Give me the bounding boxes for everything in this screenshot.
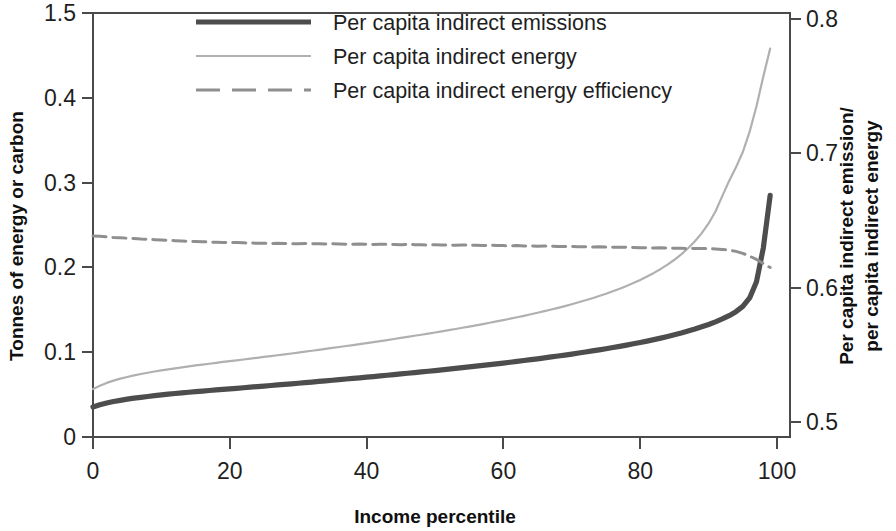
left-tick-label: 1.5 <box>44 0 76 26</box>
left-tick-label: 0.2 <box>44 254 76 280</box>
right-tick-label: 0.5 <box>806 409 838 435</box>
x-tick-label: 0 <box>87 458 100 484</box>
left-tick-label: 0.1 <box>44 339 76 365</box>
right-tick-label: 0.8 <box>806 6 838 32</box>
x-axis-title: Income percentile <box>354 506 516 527</box>
x-tick-label: 60 <box>491 458 517 484</box>
x-tick-label: 100 <box>758 458 796 484</box>
left-tick-label: 0.3 <box>44 170 76 196</box>
chart-figure: 00.10.20.30.41.5 0.50.60.70.8 0204060801… <box>0 0 896 531</box>
left-tick-label: 0 <box>63 424 76 450</box>
x-tick-label: 20 <box>217 458 243 484</box>
right-tick-label: 0.6 <box>806 275 838 301</box>
x-tick-label: 80 <box>627 458 653 484</box>
left-axis-title: Tonnes of energy or carbon <box>6 111 27 361</box>
right-axis-title-line-1: Per capita indirect emission/ <box>836 106 857 364</box>
left-tick-label: 0.4 <box>44 85 76 111</box>
legend-item-label: Per capita indirect emissions <box>333 11 607 35</box>
x-tick-label: 40 <box>354 458 380 484</box>
right-axis-title-line-2: per capita indirect energy <box>861 120 882 352</box>
legend-item-label: Per capita indirect energy <box>333 45 577 69</box>
legend-item-label: Per capita indirect energy efficiency <box>333 79 672 103</box>
right-tick-label: 0.7 <box>806 140 838 166</box>
line-chart: 00.10.20.30.41.5 0.50.60.70.8 0204060801… <box>0 0 896 531</box>
